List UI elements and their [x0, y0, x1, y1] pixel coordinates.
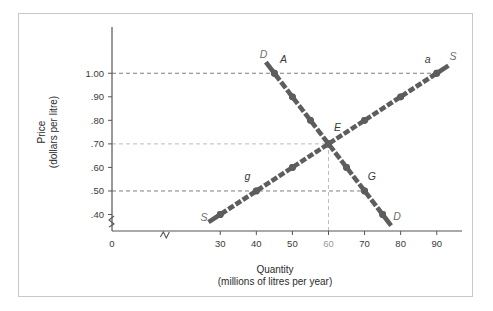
data-point-marker — [325, 140, 332, 147]
x-axis-break-icon — [160, 232, 169, 238]
figure-root: .40.50.60.70.80.901.00030405060708090 DD… — [0, 0, 493, 311]
curve-segment-supply — [292, 144, 328, 168]
data-point-marker — [397, 93, 404, 100]
reference-lines-layer — [112, 73, 437, 231]
y-tick-label: 1.00 — [86, 68, 105, 79]
x-tick-label: 50 — [287, 238, 298, 249]
data-point-marker — [289, 93, 296, 100]
y-tick-label: .70 — [91, 138, 104, 149]
annotation-label-A: A — [279, 53, 287, 65]
annotation-label-D: D — [260, 48, 268, 60]
data-point-marker — [271, 70, 278, 77]
annotation-label-a: a — [425, 53, 431, 65]
annotation-label-S: S — [449, 50, 456, 62]
y-tick-label: .50 — [91, 185, 104, 196]
curve-segment-demand — [328, 144, 346, 168]
curve-segment-demand — [292, 97, 310, 121]
x-tick-label: 70 — [359, 238, 370, 249]
y-tick-label: .60 — [91, 162, 104, 173]
annotation-label-g: g — [244, 170, 250, 182]
data-point-marker — [253, 188, 260, 195]
axis-titles-layer: Quantity(millions of litres per year)Pri… — [36, 96, 332, 287]
x-tick-label: 80 — [395, 238, 406, 249]
data-point-marker — [289, 164, 296, 171]
annotation-label-E: E — [334, 121, 342, 133]
annotation-label-G: G — [368, 170, 376, 182]
annotations-layer: DDSSAaEgG — [201, 48, 457, 223]
curve-segment-demand — [365, 191, 383, 215]
x-tick-label: 90 — [431, 238, 442, 249]
data-point-marker — [217, 211, 224, 218]
y-axis-subtitle: (dollars per litre) — [48, 96, 59, 168]
curve-segment-supply — [401, 73, 437, 97]
data-point-marker — [379, 211, 386, 218]
x-tick-label: 60 — [323, 238, 334, 249]
curve-segment-supply — [220, 191, 256, 215]
x-tick-label: 30 — [215, 238, 226, 249]
data-point-marker — [307, 117, 314, 124]
y-axis-title: Price — [36, 120, 47, 143]
x-axis-title: Quantity — [256, 264, 293, 275]
data-point-marker — [361, 188, 368, 195]
annotation-label-S: S — [201, 211, 208, 223]
chart-panel: .40.50.60.70.80.901.00030405060708090 DD… — [18, 13, 473, 297]
top-caption — [0, 0, 493, 11]
y-axis-break-icon — [109, 216, 114, 227]
data-point-marker — [343, 164, 350, 171]
curve-segment-supply — [256, 167, 292, 191]
curve-segment-demand — [274, 73, 292, 97]
data-point-marker — [433, 70, 440, 77]
curve-segment-demand — [310, 120, 328, 144]
annotation-label-D: D — [393, 210, 401, 222]
y-tick-label: .40 — [91, 209, 104, 220]
x-tick-label: 40 — [251, 238, 262, 249]
y-tick-label: .80 — [91, 115, 104, 126]
curve-segment-supply — [365, 97, 401, 121]
data-point-marker — [361, 117, 368, 124]
x-axis-subtitle: (millions of litres per year) — [218, 276, 332, 287]
y-tick-label: .90 — [91, 91, 104, 102]
curve-segment-demand — [347, 167, 365, 191]
supply-demand-chart: .40.50.60.70.80.901.00030405060708090 DD… — [19, 14, 472, 296]
x-tick-label: 0 — [109, 238, 114, 249]
